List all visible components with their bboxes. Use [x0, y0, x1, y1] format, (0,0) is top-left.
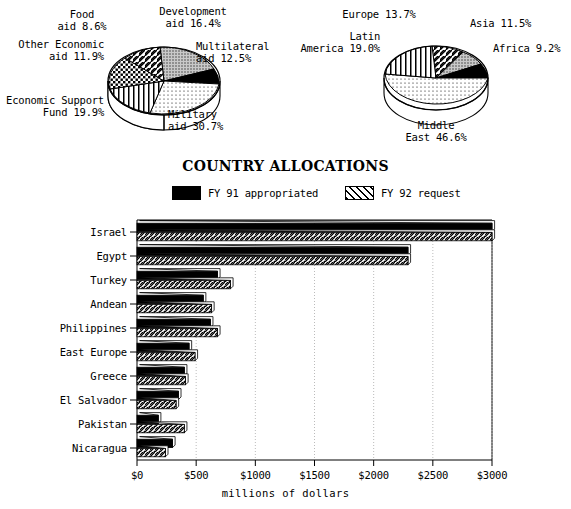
pie-right-svg [380, 26, 492, 132]
x-axis-tick-label: $2500 [403, 469, 463, 481]
x-axis-tick-label: $0 [107, 469, 167, 481]
x-axis-title: millions of dollars [0, 487, 571, 499]
y-axis-label: Philippines [0, 322, 127, 334]
x-axis-tick-label: $1500 [285, 469, 345, 481]
x-axis-tick-label: $500 [166, 469, 226, 481]
chart-legend: FY 91 appropriated FY 92 request [0, 186, 571, 204]
y-axis-label: Andean [0, 298, 127, 310]
legend-item-fy92: FY 92 request [345, 186, 461, 200]
pie-left-label-esf: Economic Support Fund 19.9% [0, 94, 104, 118]
y-axis-label: Greece [0, 370, 127, 382]
y-axis-label: Pakistan [0, 418, 127, 430]
bar-chart-country-allocations: IsraelEgyptTurkeyAndeanPhilippinesEast E… [0, 212, 571, 509]
legend-label-fy91: FY 91 appropriated [208, 187, 318, 199]
pie-left-label-military: Military aid 30.7% [168, 108, 268, 132]
pie-right-label-africa: Africa 9.2% [493, 42, 571, 54]
pie-chart-aid-by-region: Europe 13.7% Asia 11.5% Latin America 19… [290, 0, 571, 155]
x-axis-tick-label: $3000 [462, 469, 522, 481]
pie-right-label-middle-east: Middle East 46.6% [380, 119, 492, 143]
pie-left-label-other-economic: Other Economic aid 11.9% [0, 38, 104, 62]
y-axis-label: East Europe [0, 346, 127, 358]
chart-title: COUNTRY ALLOCATIONS [0, 158, 571, 174]
pie-left-label-development: Development aid 16.4% [139, 5, 247, 29]
x-axis-tick-label: $1000 [225, 469, 285, 481]
pie-left-label-food: Food aid 8.6% [34, 8, 130, 32]
y-axis-label: Israel [0, 226, 127, 238]
pie-chart-aid-by-category: Food aid 8.6% Development aid 16.4% Othe… [0, 0, 290, 155]
pie-charts-row: Food aid 8.6% Development aid 16.4% Othe… [0, 0, 571, 155]
pie-right-label-asia: Asia 11.5% [470, 17, 565, 29]
y-axis-label: Egypt [0, 250, 127, 262]
y-axis-label: Turkey [0, 274, 127, 286]
y-axis-label: Nicaragua [0, 442, 127, 454]
legend-label-fy92: FY 92 request [381, 187, 461, 199]
pie-left-label-multilateral: Multilateral aid 12.5% [196, 40, 290, 64]
legend-swatch-black [172, 186, 201, 200]
y-axis-label: El Salvador [0, 394, 127, 406]
pie-right-label-europe: Europe 13.7% [324, 8, 434, 20]
legend-item-fy91: FY 91 appropriated [172, 186, 318, 200]
x-axis-tick-label: $2000 [344, 469, 404, 481]
legend-swatch-hatched [345, 186, 374, 200]
pie-right-label-latin-america: Latin America 19.0% [282, 30, 380, 54]
